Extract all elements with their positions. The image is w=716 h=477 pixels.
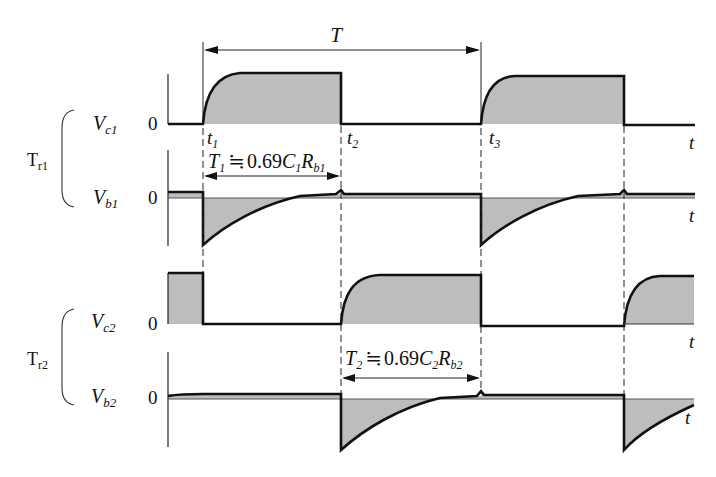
vb2-time-axis-label: t	[685, 407, 691, 428]
tr1-group: Tr1 Vc1 0 t1 t2 t3 t T1≒0.69C1Rb1	[27, 73, 695, 246]
vc2-time-axis-label: t	[689, 331, 695, 352]
vb1-time-axis-label: t	[689, 205, 695, 226]
multivibrator-waveform-diagram: T Tr1 Vc1 0 t1 t2 t3 t T1≒0.69C1Rb1	[0, 0, 716, 477]
vc2-label: Vc2	[91, 310, 116, 335]
t2-duration-annotation: T2≒0.69C2Rb2	[342, 347, 480, 382]
vc1-time-axis-label: t	[689, 132, 695, 153]
svg-text:T2≒0.69C2Rb2: T2≒0.69C2Rb2	[345, 347, 462, 372]
arrowhead-left-icon	[204, 46, 218, 54]
t2-marker: t2	[347, 127, 358, 151]
tr2-group: Tr2 Vc2 0 t T2≒0.69C2Rb2 Vb2	[27, 273, 695, 450]
t3-marker: t3	[489, 127, 500, 151]
vc1-zero-label: 0	[148, 113, 158, 134]
vc1-waveform	[168, 73, 695, 125]
t1-marker: t1	[207, 127, 218, 151]
arrowhead-right-icon	[466, 46, 480, 54]
period-label: T	[330, 23, 343, 47]
t1-duration-annotation: T1≒0.69C1Rb1	[204, 150, 340, 180]
vb2-label: Vb2	[91, 385, 117, 410]
vc1-label: Vc1	[93, 112, 118, 137]
vc2-zero-label: 0	[148, 313, 158, 334]
vb1-label: Vb1	[93, 186, 118, 211]
vc2-waveform	[168, 273, 694, 326]
svg-text:T1≒0.69C1Rb1: T1≒0.69C1Rb1	[208, 150, 325, 175]
vb1-zero-label: 0	[148, 187, 158, 208]
tr1-label: Tr1	[27, 150, 48, 173]
vb2-zero-label: 0	[148, 387, 158, 408]
tr2-label: Tr2	[27, 349, 48, 372]
